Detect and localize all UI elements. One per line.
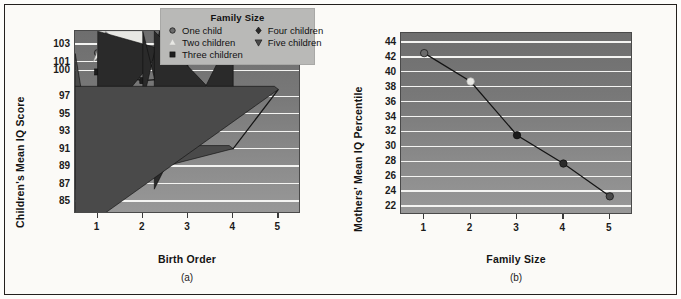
x-tick-mark xyxy=(516,214,517,219)
chart-b-plot-area xyxy=(400,32,632,214)
x-tick-mark xyxy=(187,213,188,218)
legend-item: Two children xyxy=(167,37,243,48)
chart-b-series-layer xyxy=(401,33,632,214)
y-tick-label: 24 xyxy=(385,185,396,196)
legend-item-label: Four children xyxy=(268,25,323,36)
legend-item-label: Two children xyxy=(182,37,235,48)
legend-title: Family Size xyxy=(167,12,308,23)
y-tick-label: 42 xyxy=(385,50,396,61)
legend-column: Four childrenFive children xyxy=(253,25,323,60)
chart-a-caption: (a) xyxy=(181,272,193,283)
y-tick-label: 32 xyxy=(385,125,396,136)
triangle-up-marker-icon xyxy=(167,37,178,48)
legend-item-label: Five children xyxy=(268,37,322,48)
legend-item: Four children xyxy=(253,25,323,36)
legend-item: One child xyxy=(167,25,243,36)
legend-column: One childTwo childrenThree children xyxy=(167,25,243,60)
x-tick-mark xyxy=(423,214,424,219)
y-tick-label: 44 xyxy=(385,35,396,46)
y-tick-label: 38 xyxy=(385,80,396,91)
diamond-marker-icon xyxy=(253,25,264,36)
x-tick-mark xyxy=(562,214,563,219)
y-tick-label: 28 xyxy=(385,155,396,166)
y-tick-label: 100 xyxy=(53,64,70,75)
chart-panel-b: Mothers' Mean IQ Percentile 444240383634… xyxy=(340,0,681,299)
x-tick-mark xyxy=(142,213,143,218)
y-tick-label: 93 xyxy=(59,125,70,136)
x-tick-label: 2 xyxy=(139,221,145,232)
y-tick-label: 85 xyxy=(59,194,70,205)
chart-b-x-axis-title: Family Size xyxy=(486,253,545,265)
x-tick-label: 3 xyxy=(513,222,519,233)
y-tick-label: 87 xyxy=(59,177,70,188)
legend: Family Size One childTwo childrenThree c… xyxy=(160,8,315,65)
legend-item: Five children xyxy=(253,37,323,48)
chart-panel-a: Children's Mean IQ Score 103101100979593… xyxy=(0,0,340,299)
x-tick-label: 1 xyxy=(94,221,100,232)
chart-b-plot-region xyxy=(400,32,632,214)
x-tick-label: 3 xyxy=(184,221,190,232)
y-tick-label: 40 xyxy=(385,65,396,76)
figure-page: Children's Mean IQ Score 103101100979593… xyxy=(0,0,681,299)
y-tick-label: 36 xyxy=(385,95,396,106)
x-tick-label: 5 xyxy=(606,222,612,233)
x-tick-label: 5 xyxy=(275,221,281,232)
legend-entries: One childTwo childrenThree childrenFour … xyxy=(167,25,308,60)
x-tick-mark xyxy=(232,213,233,218)
chart-b-caption: (b) xyxy=(510,272,522,283)
y-tick-label: 30 xyxy=(385,140,396,151)
circle-marker-icon xyxy=(167,25,178,36)
x-tick-label: 4 xyxy=(560,222,566,233)
y-tick-label: 103 xyxy=(53,38,70,49)
legend-item: Three children xyxy=(167,49,243,60)
chart-a-y-axis-title: Children's Mean IQ Score xyxy=(14,96,26,228)
y-tick-label: 95 xyxy=(59,107,70,118)
y-tick-label: 91 xyxy=(59,142,70,153)
x-tick-mark xyxy=(97,213,98,218)
x-tick-mark xyxy=(470,214,471,219)
x-tick-mark xyxy=(609,214,610,219)
chart-a-x-axis-title: Birth Order xyxy=(158,253,216,265)
legend-item-label: Three children xyxy=(182,49,243,60)
x-tick-label: 4 xyxy=(229,221,235,232)
y-tick-label: 34 xyxy=(385,110,396,121)
chart-b-y-axis-title: Mothers' Mean IQ Percentile xyxy=(352,86,364,232)
x-tick-label: 2 xyxy=(467,222,473,233)
legend-item-label: One child xyxy=(182,25,222,36)
x-tick-mark xyxy=(277,213,278,218)
square-marker-icon xyxy=(167,49,178,60)
y-tick-label: 22 xyxy=(385,200,396,211)
y-tick-label: 26 xyxy=(385,170,396,181)
x-tick-label: 1 xyxy=(420,222,426,233)
y-tick-label: 97 xyxy=(59,90,70,101)
triangle-down-marker-icon xyxy=(253,37,264,48)
y-tick-label: 89 xyxy=(59,160,70,171)
